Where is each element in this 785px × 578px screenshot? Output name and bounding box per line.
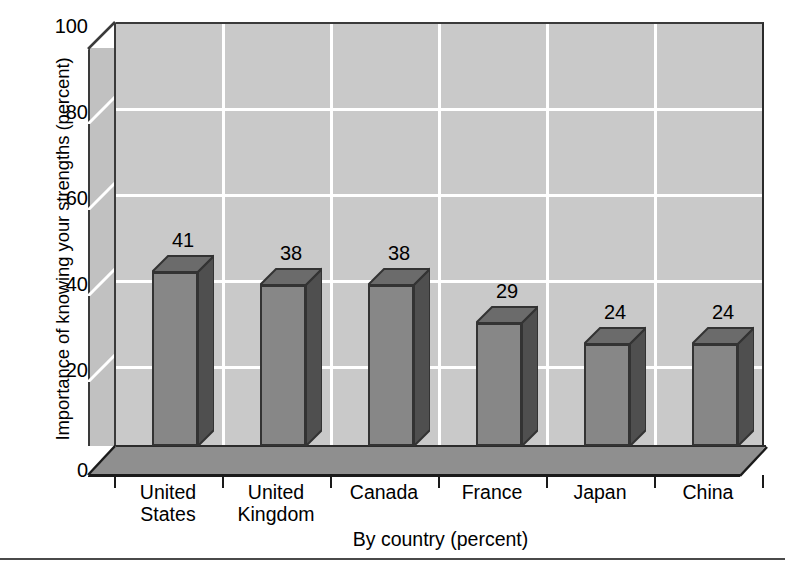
bar-value-label: 29 — [476, 281, 538, 301]
x-label-line-1: Japan — [546, 481, 654, 503]
plot-bevel-top-left — [88, 22, 116, 50]
x-label-united-kingdom: United Kingdom — [222, 481, 330, 525]
plot-area: 41 38 38 29 — [88, 22, 766, 482]
x-label-united-states: United States — [114, 481, 222, 525]
x-axis-title: By country (percent) — [0, 528, 785, 551]
x-label-line-1: United — [114, 481, 222, 503]
gridline-vertical-2 — [330, 24, 333, 446]
gridline-vertical-5 — [654, 24, 657, 446]
gridline-vertical-1 — [222, 24, 225, 446]
y-tick-label-0: 0 — [28, 460, 88, 480]
chart-figure: Importance of knowing your strengths (pe… — [0, 0, 785, 578]
bar-china[interactable]: 24 — [692, 22, 754, 446]
x-label-canada: Canada — [330, 481, 438, 503]
plot-floor — [88, 446, 766, 476]
gridline-vertical-4 — [546, 24, 549, 446]
bar-united-kingdom[interactable]: 38 — [260, 22, 322, 446]
bar-france[interactable]: 29 — [476, 22, 538, 446]
bar-value-label: 38 — [260, 243, 322, 263]
bar-3d-faces — [692, 22, 754, 446]
bar-3d-faces — [368, 22, 430, 446]
bar-3d-faces — [260, 22, 322, 446]
bar-value-label: 41 — [152, 230, 214, 250]
bar-3d-faces — [476, 22, 538, 446]
x-label-line-1: China — [654, 481, 762, 503]
y-tick-label-40: 40 — [28, 274, 88, 294]
x-tick-6 — [762, 475, 764, 488]
bar-value-label: 24 — [584, 302, 646, 322]
y-tick-label-60: 60 — [28, 188, 88, 208]
x-label-line-1: France — [438, 481, 546, 503]
plot-side-wall — [88, 48, 114, 446]
x-label-line-2: Kingdom — [222, 503, 330, 525]
x-label-line-2: States — [114, 503, 222, 525]
bar-value-label: 24 — [692, 302, 754, 322]
y-tick-label-20: 20 — [28, 360, 88, 380]
bar-japan[interactable]: 24 — [584, 22, 646, 446]
x-label-line-1: United — [222, 481, 330, 503]
x-label-france: France — [438, 481, 546, 503]
bar-united-states[interactable]: 41 — [152, 22, 214, 446]
bar-canada[interactable]: 38 — [368, 22, 430, 446]
bar-value-label: 38 — [368, 243, 430, 263]
bar-3d-faces — [584, 22, 646, 446]
gridline-vertical-3 — [438, 24, 441, 446]
y-tick-label-100: 100 — [28, 16, 88, 36]
x-label-japan: Japan — [546, 481, 654, 503]
x-label-line-1: Canada — [330, 481, 438, 503]
plot-floor-front-edge — [88, 474, 740, 477]
footer-divider — [0, 558, 785, 560]
y-tick-label-80: 80 — [28, 102, 88, 122]
y-axis-ticks: 100 80 60 40 20 0 — [20, 0, 88, 578]
x-label-china: China — [654, 481, 762, 503]
